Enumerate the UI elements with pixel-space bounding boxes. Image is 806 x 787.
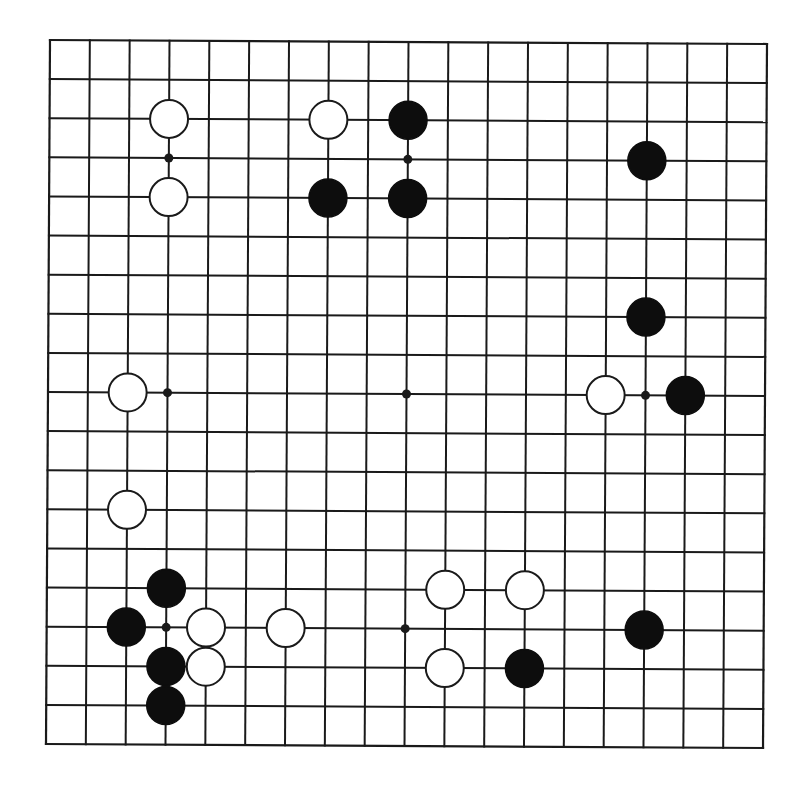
- star-point: [162, 623, 171, 632]
- black-stone: [309, 179, 347, 217]
- star-point: [164, 154, 173, 163]
- white-stone: [109, 373, 147, 411]
- white-stone: [187, 609, 225, 647]
- star-point: [641, 391, 650, 400]
- white-stone: [426, 571, 464, 609]
- white-stone: [150, 178, 188, 216]
- white-stone: [506, 571, 544, 609]
- white-stone: [108, 491, 146, 529]
- black-stone: [107, 608, 145, 646]
- go-board: [0, 0, 806, 787]
- go-board-diagram: [0, 0, 806, 787]
- black-stone: [627, 298, 665, 336]
- white-stone: [267, 609, 305, 647]
- black-stone: [389, 101, 427, 139]
- star-point: [402, 390, 411, 399]
- star-point: [403, 155, 412, 164]
- white-stone: [426, 649, 464, 687]
- black-stone: [147, 569, 185, 607]
- black-stone: [147, 647, 185, 685]
- black-stone: [628, 142, 666, 180]
- black-stone: [505, 649, 543, 687]
- black-stone: [147, 687, 185, 725]
- black-stone: [666, 377, 704, 415]
- star-point: [163, 388, 172, 397]
- white-stone: [309, 101, 347, 139]
- star-point: [401, 624, 410, 633]
- black-stone: [625, 611, 663, 649]
- white-stone: [150, 100, 188, 138]
- white-stone: [187, 648, 225, 686]
- white-stone: [587, 376, 625, 414]
- black-stone: [389, 179, 427, 217]
